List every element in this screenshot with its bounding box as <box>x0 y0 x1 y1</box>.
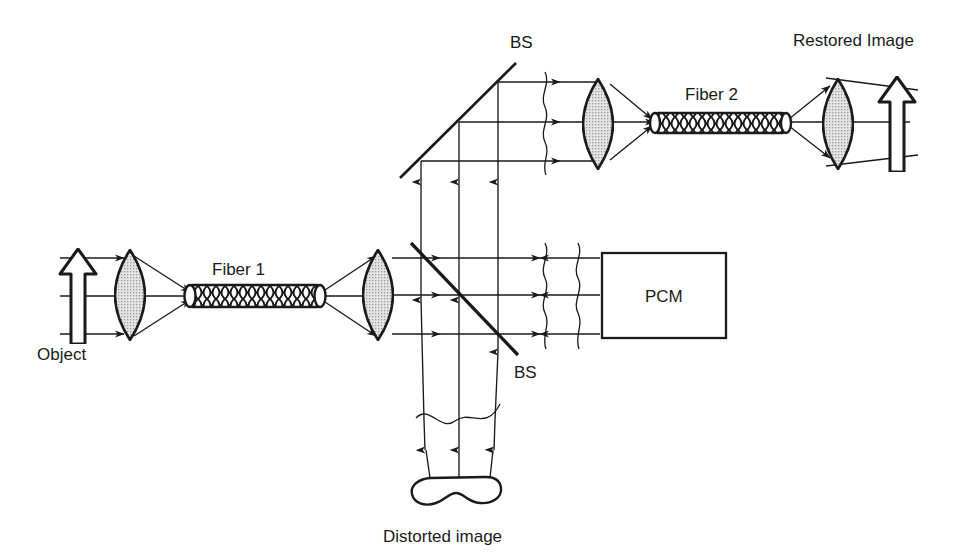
label-pcm: PCM <box>645 287 683 306</box>
wavefront-distorted <box>416 404 500 424</box>
wavefront-upper <box>543 72 547 175</box>
fiber-1 <box>185 285 326 307</box>
collimated-beam-upper <box>421 82 596 161</box>
label-restored-image: Restored Image <box>793 31 914 50</box>
restored-image-arrow <box>879 77 915 172</box>
label-bs-upper: BS <box>510 33 533 52</box>
collimated-beam-lower <box>392 258 600 334</box>
label-object: Object <box>37 345 86 364</box>
lens3-to-fiber2-rays <box>610 84 654 160</box>
label-bs-lower: BS <box>514 363 537 382</box>
distorted-blob <box>412 477 501 505</box>
fiber-2 <box>650 113 791 133</box>
label-distorted-image: Distorted image <box>383 527 502 546</box>
wavefront-lower-b <box>576 243 580 349</box>
lens-1 <box>115 250 145 340</box>
beamsplitter-lower <box>411 243 518 355</box>
wavefront-lower-a <box>543 243 547 349</box>
lens-2 <box>363 250 393 340</box>
label-fiber-1: Fiber 1 <box>212 260 265 279</box>
optical-diagram: Object Fiber 1 BS PCM BS Fiber 2 Restore… <box>0 0 961 556</box>
diagram-canvas: Object Fiber 1 BS PCM BS Fiber 2 Restore… <box>0 0 961 556</box>
lens-3 <box>583 79 613 169</box>
label-fiber-2: Fiber 2 <box>685 85 738 104</box>
